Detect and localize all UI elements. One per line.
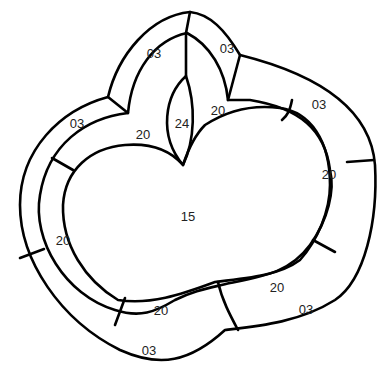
region-outlines <box>0 0 382 368</box>
label-middle-bottom-right: 20 <box>270 281 284 294</box>
label-top-leaf: 24 <box>175 117 189 130</box>
label-middle-bottom-left: 20 <box>154 304 168 317</box>
label-outer-bottom: 03 <box>142 344 156 357</box>
label-outer-left-upper: 03 <box>70 117 84 130</box>
label-middle-left: 20 <box>56 234 70 247</box>
label-top-left-cap: 03 <box>147 47 161 60</box>
label-outer-right-lower: 03 <box>299 303 313 316</box>
top-left-cap-edge <box>108 97 128 113</box>
divider-middle-right-lower <box>313 240 335 252</box>
label-middle-top-left: 20 <box>136 128 150 141</box>
label-middle-top-right: 20 <box>211 104 225 117</box>
label-middle-right: 20 <box>322 168 336 181</box>
label-center: 15 <box>181 210 195 223</box>
divider-middle-bottom-center <box>218 282 238 330</box>
label-outer-right-upper: 03 <box>312 98 326 111</box>
divider-middle-left-upper <box>52 158 73 170</box>
top-right-cap-edge <box>228 55 240 100</box>
region-diagram: 15 24 03 03 03 03 03 03 20 20 20 20 20 2… <box>0 0 382 368</box>
divider-outer-right <box>347 160 374 162</box>
label-top-right-cap: 03 <box>220 42 234 55</box>
outer-boundary <box>20 12 375 360</box>
center-region-boundary <box>63 107 330 301</box>
stem-line <box>186 12 190 76</box>
